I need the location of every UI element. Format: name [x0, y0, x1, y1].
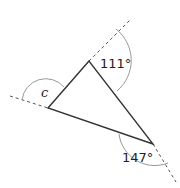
- angle-label-top: 111°: [100, 56, 131, 71]
- angle-label-left: c: [41, 85, 49, 100]
- extension-line-right: [153, 144, 176, 182]
- triangle-diagram: 111° 147° c: [0, 0, 180, 188]
- triangle: [48, 61, 153, 144]
- angle-label-right: 147°: [122, 150, 153, 165]
- extension-line-top: [89, 20, 130, 61]
